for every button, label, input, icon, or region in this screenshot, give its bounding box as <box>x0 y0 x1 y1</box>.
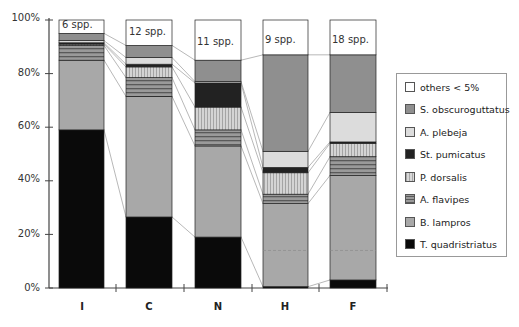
bar-segment <box>59 33 104 40</box>
bar-segment <box>263 151 308 167</box>
legend-item: A. flavipes <box>405 192 469 206</box>
legend-item: S. obscuroguttatus <box>405 102 510 116</box>
legend: others < 5% S. obscuroguttatus A. plebej… <box>396 73 507 257</box>
bar-segment <box>330 157 376 176</box>
bar-segment <box>59 60 104 130</box>
bar-segment <box>330 175 376 280</box>
x-category-label: N <box>208 301 228 312</box>
y-tick-label: 20% <box>0 228 40 239</box>
bar-segment <box>59 130 104 288</box>
bar-segment <box>126 96 172 217</box>
x-category-label: C <box>139 301 159 312</box>
legend-item: St. pumicatus <box>405 147 485 161</box>
legend-swatch-icon <box>405 82 415 92</box>
bar-segment <box>126 45 172 57</box>
y-tick-label: 40% <box>0 173 40 184</box>
legend-item: T. quadristriatus <box>405 237 497 251</box>
bar-segment <box>330 143 376 156</box>
legend-item: P. dorsalis <box>405 170 467 184</box>
bar-segment <box>330 112 376 141</box>
species-count-label: 9 spp. <box>265 34 296 45</box>
legend-swatch-icon <box>405 104 415 114</box>
legend-item: others < 5% <box>405 80 479 94</box>
legend-label: T. quadristriatus <box>420 239 497 250</box>
legend-label: St. pumicatus <box>420 149 485 160</box>
bar-segment <box>126 217 172 288</box>
legend-label: B. lampros <box>420 217 471 228</box>
legend-item: A. plebeja <box>405 125 467 139</box>
bar-segment <box>59 45 104 60</box>
y-tick-label: 80% <box>0 67 40 78</box>
bar-segment <box>263 167 308 172</box>
bar-segment <box>330 55 376 113</box>
x-category-label: I <box>72 301 92 312</box>
legend-swatch-icon <box>405 149 415 159</box>
bar-segment <box>195 107 241 130</box>
species-count-label: 6 spp. <box>62 19 93 30</box>
legend-swatch-icon <box>405 127 415 137</box>
species-count-label: 11 spp. <box>197 36 234 47</box>
bar-segment <box>126 78 172 97</box>
legend-swatch-icon <box>405 172 415 182</box>
bar-segment <box>195 83 241 107</box>
species-count-label: 18 spp. <box>332 34 369 45</box>
bar-segment <box>195 146 241 237</box>
y-tick-label: 100% <box>0 12 40 23</box>
y-tick-label: 60% <box>0 120 40 131</box>
y-tick-label: 0% <box>0 282 40 293</box>
bar-segment <box>126 67 172 78</box>
bar-segment <box>263 194 308 203</box>
legend-swatch-icon <box>405 217 415 227</box>
bar-segment <box>195 237 241 288</box>
legend-swatch-icon <box>405 239 415 249</box>
legend-item: B. lampros <box>405 215 471 229</box>
bar-segment <box>126 64 172 67</box>
legend-label: others < 5% <box>420 82 479 93</box>
x-category-label: F <box>343 301 363 312</box>
legend-label: A. plebeja <box>420 127 467 138</box>
legend-label: P. dorsalis <box>420 172 467 183</box>
bar-segment <box>126 58 172 65</box>
bar-segment <box>195 60 241 81</box>
bar-segment <box>330 280 376 288</box>
bar-segment <box>195 130 241 146</box>
bar-segment <box>263 55 308 151</box>
legend-swatch-icon <box>405 194 415 204</box>
x-category-label: H <box>275 301 295 312</box>
stacked-bar-chart: 0% 20% 40% 60% 80% 100% I C N H F 6 spp.… <box>0 0 519 327</box>
bar-segment <box>263 204 308 287</box>
bar-segment <box>263 173 308 194</box>
legend-label: S. obscuroguttatus <box>420 104 510 115</box>
species-count-label: 12 spp. <box>129 26 166 37</box>
legend-label: A. flavipes <box>420 194 469 205</box>
